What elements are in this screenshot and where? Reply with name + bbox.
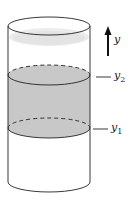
y2-subscript: 2 xyxy=(120,75,125,84)
y1-subscript: 1 xyxy=(117,127,122,136)
y-axis-arrow-head xyxy=(105,26,112,35)
y1-label: y1 xyxy=(111,122,122,136)
cylinder-bottom-front xyxy=(8,182,90,192)
y-axis-label: y xyxy=(114,34,120,45)
cylinder-diagram xyxy=(0,0,133,207)
y2-label: y2 xyxy=(114,70,125,84)
